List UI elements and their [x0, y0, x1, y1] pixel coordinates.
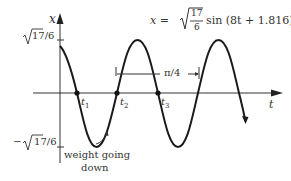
equation-lhs: x =	[150, 15, 169, 26]
chart-canvas	[0, 0, 291, 181]
curve-end-arrow-icon	[242, 116, 249, 124]
t3-label: t3	[161, 97, 170, 110]
equation-sqrt-num: 17	[191, 9, 202, 18]
t2-label: t2	[120, 97, 129, 110]
y-top-tick-label: 17/6	[32, 31, 54, 41]
y-axis-arrow-icon	[57, 13, 64, 24]
t2-dot	[114, 90, 119, 95]
top-tick-num: 17	[32, 30, 45, 41]
equation-sqrt-den: 6	[194, 23, 200, 32]
x-axis-label: t	[269, 99, 273, 110]
t-axis-arrow-icon	[271, 90, 283, 97]
weight-note-line2: down	[81, 163, 108, 173]
weight-note-line1: weight going	[64, 150, 130, 160]
t1-dot	[74, 90, 79, 95]
t3-dot	[155, 90, 160, 95]
y-axis-label: x	[49, 13, 56, 25]
period-arrow-icon	[195, 72, 199, 76]
t1-label: t1	[81, 97, 90, 110]
period-label: π/4	[164, 68, 180, 78]
equation-rhs: sin (8t + 1.816)	[206, 15, 291, 26]
y-bottom-tick-label: − 17/6	[13, 137, 57, 147]
bottom-tick-num: 17	[34, 136, 47, 147]
